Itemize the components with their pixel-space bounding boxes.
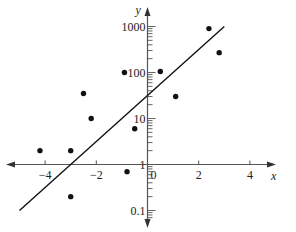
x-axis-right-arrow-icon	[267, 162, 276, 168]
y-tick-label: 1000	[122, 20, 146, 34]
data-point	[68, 194, 73, 199]
data-point	[122, 70, 127, 75]
fit-line	[20, 27, 225, 211]
y-axis-down-arrow-icon	[145, 219, 151, 228]
tick-labels: −4−20240.11101001000	[39, 20, 253, 218]
data-point	[132, 126, 137, 131]
x-tick-label: 4	[247, 168, 253, 182]
data-point	[88, 116, 93, 121]
data-point	[158, 69, 163, 74]
data-point	[173, 94, 178, 99]
y-axis-up-arrow-icon	[145, 7, 151, 16]
data-point	[81, 91, 86, 96]
data-point	[206, 26, 211, 31]
y-tick-label: 10	[134, 112, 146, 126]
x-tick-label: −2	[90, 168, 103, 182]
scatter-chart: −4−20240.11101001000 x y	[0, 0, 296, 232]
data-point	[216, 50, 221, 55]
x-tick-label: −4	[39, 168, 52, 182]
y-axis-label: y	[135, 3, 142, 17]
data-point	[124, 169, 129, 174]
y-tick-label: 1	[140, 158, 146, 172]
y-tick-label: 0.1	[131, 204, 146, 218]
data-point	[37, 148, 42, 153]
y-tick-label: 100	[128, 66, 146, 80]
x-tick-label: 2	[196, 168, 202, 182]
x-tick-label: 0	[151, 168, 157, 182]
data-point	[68, 148, 73, 153]
x-axis-left-arrow-icon	[6, 162, 15, 168]
data-points	[37, 26, 222, 199]
x-axis-label: x	[270, 169, 277, 183]
